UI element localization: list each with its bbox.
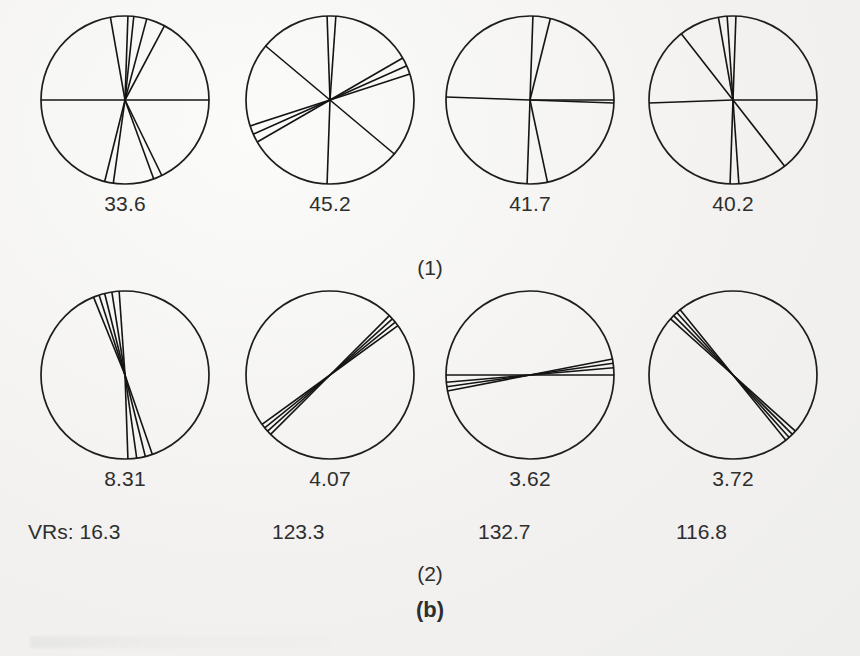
orientation-ray (527, 100, 530, 184)
orientation-ray (112, 292, 125, 375)
disc-cell-2-1: 8.31 (20, 285, 230, 490)
orientation-ray (649, 100, 733, 103)
orientation-ray (110, 17, 125, 100)
orientation-ray (733, 16, 736, 100)
orientation-ray (448, 375, 530, 391)
vrs-cell-3: 132.7 (478, 520, 531, 544)
vrs-value: 116.8 (676, 520, 727, 543)
vrs-value: 132.7 (478, 520, 531, 543)
orientation-ray (330, 74, 410, 100)
disc-cell-1-3: 41.7 (425, 10, 635, 215)
orientation-ray (733, 100, 785, 166)
orientation-figure: 33.6 45.2 41.7 40.2 (1) 8.31 4.07 3.62 (0, 0, 860, 656)
orientation-ray (250, 100, 330, 126)
orientation-ray (271, 375, 330, 434)
orientation-ray (327, 100, 330, 184)
orientation-ray (257, 100, 330, 142)
orientation-disc (440, 10, 620, 190)
disc-value-label: 3.72 (628, 467, 838, 490)
orientation-ray (681, 34, 733, 100)
orientation-ray (733, 100, 739, 184)
disc-value-label: 45.2 (225, 192, 435, 215)
vrs-value: 16.3 (80, 520, 121, 543)
orientation-ray (530, 359, 612, 375)
orientation-disc (35, 285, 215, 465)
orientation-ray (266, 46, 330, 100)
vrs-value: 123.3 (272, 520, 325, 543)
orientation-ray (125, 100, 154, 179)
disc-cell-1-1: 33.6 (20, 10, 230, 215)
orientation-ray (330, 100, 394, 154)
disc-value-label: 8.31 (20, 467, 230, 490)
orientation-ray (125, 19, 147, 100)
vrs-row: VRs:16.3 123.3 132.7 116.8 (0, 520, 860, 550)
orientation-disc (440, 285, 620, 465)
orientation-ray (330, 66, 407, 100)
orientation-ray (253, 100, 330, 134)
panel-label-1: (1) (0, 256, 860, 280)
disc-cell-2-4: 3.72 (628, 285, 838, 490)
figure-sublabel: (b) (0, 597, 860, 623)
vrs-cell-4: 116.8 (676, 520, 727, 544)
vrs-prefix-label: VRs: (28, 520, 74, 543)
caption-smudge (30, 636, 330, 648)
orientation-disc (240, 10, 420, 190)
orientation-ray (125, 100, 162, 176)
vrs-cell-1: VRs:16.3 (28, 520, 120, 544)
orientation-disc (643, 285, 823, 465)
disc-cell-2-2: 4.07 (225, 285, 435, 490)
orientation-ray (530, 100, 547, 182)
orientation-disc (35, 10, 215, 190)
panel-label-2: (2) (0, 562, 860, 586)
disc-value-label: 41.7 (425, 192, 635, 215)
orientation-ray (330, 16, 336, 100)
orientation-ray (730, 100, 733, 184)
orientation-ray (446, 97, 530, 100)
disc-value-label: 33.6 (20, 192, 230, 215)
orientation-disc (240, 285, 420, 465)
disc-cell-2-3: 3.62 (425, 285, 635, 490)
disc-value-label: 4.07 (225, 467, 435, 490)
orientation-ray (99, 295, 125, 375)
disc-value-label: 3.62 (425, 467, 635, 490)
orientation-ray (733, 375, 795, 431)
disc-cell-1-4: 40.2 (628, 10, 838, 215)
orientation-ray (327, 16, 330, 100)
orientation-ray (330, 316, 389, 375)
disc-cell-1-2: 45.2 (225, 10, 435, 215)
disc-value-label: 40.2 (628, 192, 838, 215)
orientation-ray (125, 375, 152, 454)
vrs-cell-2: 123.3 (272, 520, 325, 544)
orientation-disc (643, 10, 823, 190)
orientation-ray (330, 58, 403, 100)
orientation-ray (671, 319, 733, 375)
